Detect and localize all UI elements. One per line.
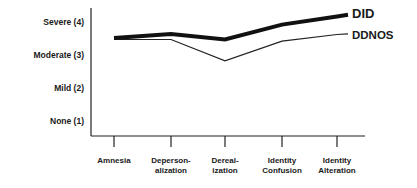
x-tick-label: IdentityAlteration xyxy=(305,156,369,176)
y-tick-label: Mild (2) xyxy=(0,83,84,93)
y-tick-label: Severe (4) xyxy=(0,17,84,27)
legend-ddnos: DDNOS xyxy=(352,29,394,41)
y-tick-label: Moderate (3) xyxy=(0,50,84,60)
x-ticks xyxy=(114,136,337,147)
y-tick-label: None (1) xyxy=(0,116,84,126)
x-tick-label: Dereal-ization xyxy=(193,156,257,176)
legend-did: DID xyxy=(352,6,374,21)
series-line-did xyxy=(114,15,348,40)
x-tick-label: Amnesia xyxy=(82,156,146,166)
